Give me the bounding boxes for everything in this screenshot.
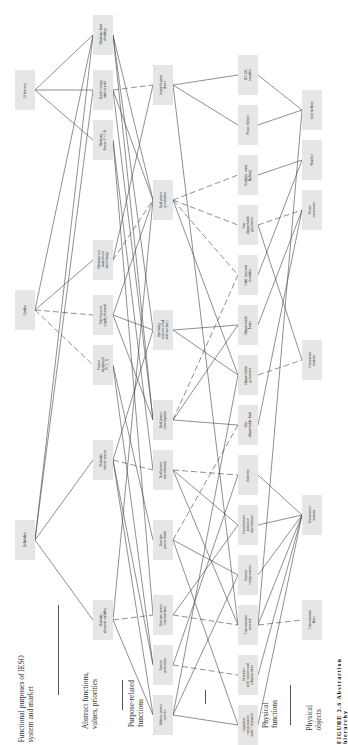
- node-label: Real power transmission: [159, 461, 167, 479]
- edge: [173, 425, 238, 540]
- node-weather: Weather: [302, 140, 322, 180]
- edge: [173, 200, 238, 225]
- edge: [35, 35, 93, 90]
- node-reactive-transmission: Reactive power transmission: [153, 595, 173, 635]
- edge: [258, 160, 302, 275]
- node-import-export: Import/export flows: [153, 65, 173, 105]
- edge: [173, 75, 238, 85]
- figure-caption: FIGURE 3.6 Abstraction hierarchy: [336, 650, 348, 744]
- edge: [113, 35, 153, 330]
- node-label: Generation stations: [308, 352, 316, 368]
- node-label: Transmission lines: [308, 610, 316, 629]
- node-label: Reactive power transmission: [159, 604, 167, 626]
- level-label-physical-objects: Physical objects: [306, 705, 323, 730]
- node-capacitor: Capacitor compensators static + dynamic: [238, 705, 258, 745]
- node-label: Power consumers: [308, 202, 316, 217]
- node-label: Balance power sources: [159, 704, 167, 725]
- node-label: Operating reserves (real and reactive): [157, 320, 169, 339]
- edge: [258, 160, 302, 175]
- edge: [173, 470, 238, 475]
- node-sunlight: Sunlight, wind, lighting: [238, 155, 258, 195]
- level-label-abstract-functions: Abstract functions, values, priorities: [82, 672, 99, 729]
- node-transformers: Transformers and auto- transformers: [238, 505, 258, 545]
- edge: [113, 140, 153, 470]
- node-switches: Switches: [238, 455, 258, 495]
- node-op-reserves: Operating reserves (real and reactive): [153, 310, 173, 350]
- node-dynamic: Maintain dynamic stability: [93, 600, 113, 640]
- edge: [173, 85, 238, 125]
- node-robust: Maintain robust system: [93, 440, 113, 480]
- node-protect-equip: Protect equipment (V, I, T): [93, 345, 113, 385]
- edge: [35, 35, 93, 540]
- level-label-functional-purposes: Functional purposes of IESO system and m…: [18, 655, 35, 742]
- node-label: Intertie lines: [310, 101, 314, 119]
- edge: [258, 225, 302, 360]
- node-label: Maintain robust system: [99, 450, 107, 470]
- node-nondisp-load: Non- dispatchable load: [238, 405, 258, 445]
- node-balance-reactive: Balance power sources: [153, 695, 173, 735]
- edge: [173, 200, 238, 275]
- node-quality: Quality: [15, 290, 35, 330]
- node-label: Real power consumption: [159, 411, 167, 430]
- node-label: Match energy bids to asks: [99, 80, 107, 100]
- node-label: Cold, heat and humidity: [244, 265, 252, 286]
- edge: [113, 35, 153, 200]
- edge: [173, 275, 238, 420]
- level-divider: [58, 605, 59, 695]
- edge: [113, 460, 153, 470]
- edge: [113, 315, 153, 420]
- level-divider: [205, 690, 206, 704]
- edge: [113, 85, 153, 260]
- edge: [113, 85, 153, 90]
- node-min-load-shed: Minimize load shedding: [93, 15, 113, 55]
- node-label: Efficiency: [23, 83, 27, 98]
- node-power-consumers: Power consumers: [302, 190, 322, 230]
- node-min-interchange: Minimize net inadvertent interchange: [93, 240, 113, 280]
- node-match-supply: Match power supply, demand: [93, 295, 113, 335]
- node-label: Phase shifters: [246, 115, 250, 135]
- edge: [113, 330, 153, 460]
- node-label: Transformers and auto- transformers: [242, 515, 254, 534]
- node-label: Switches: [246, 469, 250, 482]
- node-label: Dispatchable loads: [244, 316, 252, 335]
- edge: [173, 175, 238, 200]
- edge: [173, 330, 238, 375]
- node-sys-protection: System protection: [153, 645, 173, 685]
- edge: [258, 75, 302, 110]
- edge: [173, 420, 238, 425]
- level-label-purpose-related: Purpose-related functions: [128, 680, 145, 727]
- node-label: Quality: [23, 305, 27, 316]
- node-gen-stations: Generation stations: [302, 340, 322, 380]
- node-label: Non- dispatchable generators: [242, 216, 254, 234]
- node-label: Breakers incl. sensors and teleprotectio…: [242, 663, 254, 687]
- node-label: Weather: [310, 154, 314, 166]
- edge: [173, 325, 238, 420]
- level-label-physical-functions: Physical functions: [262, 700, 279, 728]
- edge: [258, 210, 302, 425]
- node-real-transmission: Real power transmission: [153, 450, 173, 490]
- node-label: System protection: [159, 658, 167, 673]
- node-trans-network: Transmission network: [238, 605, 258, 645]
- node-label: Minimize net inadvertent interchange: [97, 250, 109, 269]
- edge: [35, 35, 93, 310]
- edge: [258, 210, 302, 325]
- node-label: Capacitor compensators static + dynamic: [242, 713, 254, 737]
- edge: [113, 315, 153, 330]
- edge: [258, 515, 302, 675]
- edge: [173, 470, 238, 525]
- node-trans-lines: Transmission lines: [302, 600, 322, 640]
- node-label: Reliability: [23, 532, 27, 547]
- node-cold-heat: Cold, heat and humidity: [238, 255, 258, 295]
- node-intertie: Intertie lines: [302, 90, 322, 130]
- edge: [113, 200, 153, 315]
- node-label: Minimize load shedding: [99, 24, 107, 45]
- node-label: Sunlight, wind, lighting: [244, 164, 252, 186]
- node-label: Transmission network: [244, 615, 252, 634]
- node-label: Import/export flows: [159, 75, 167, 95]
- node-min-losses: Minimize losses P = I²R: [93, 120, 113, 160]
- node-nondisp-gen: Non- dispatchable generators: [238, 205, 258, 245]
- edge: [173, 615, 238, 625]
- node-label: Transformer stations: [308, 506, 316, 524]
- node-reactor-comp: Reactor compensators: [238, 555, 258, 595]
